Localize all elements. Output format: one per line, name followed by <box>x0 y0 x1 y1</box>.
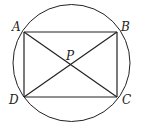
vertex-label-a: A <box>11 20 21 34</box>
vertex-label-c: C <box>122 93 131 107</box>
vertex-label-d: D <box>8 93 19 107</box>
vertex-label-b: B <box>120 20 130 34</box>
circumscribed-circle <box>13 5 130 122</box>
geometry-diagram: A B C D P <box>0 0 141 125</box>
intersection-label-p: P <box>65 49 75 63</box>
